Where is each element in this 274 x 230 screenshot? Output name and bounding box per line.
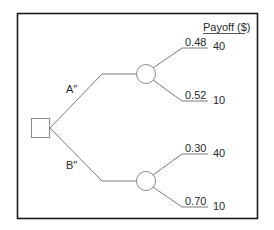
outcome-b1-payoff: 40 (213, 147, 225, 159)
branch-b-label: B″ (66, 159, 77, 171)
outcome-b1-probability: 0.30 (185, 142, 206, 154)
decision-node-square (32, 119, 50, 138)
outcome-a1-payoff: 40 (213, 40, 225, 52)
outcome-a2-probability: 0.52 (185, 89, 206, 101)
outcome-a1-probability: 0.48 (185, 36, 206, 48)
outcome-b2-payoff: 10 (213, 200, 225, 212)
branch-a-label: A″ (66, 83, 77, 95)
decision-tree-diagram: Payoff ($) A″ 0.48 40 0.52 10 B″ 0.30 40… (0, 0, 274, 230)
chance-node-a (137, 65, 156, 84)
chance-node-b (137, 172, 156, 191)
outcome-a2-payoff: 10 (213, 94, 225, 106)
outcome-b2-probability: 0.70 (185, 195, 206, 207)
payoff-header: Payoff ($) (203, 21, 251, 33)
